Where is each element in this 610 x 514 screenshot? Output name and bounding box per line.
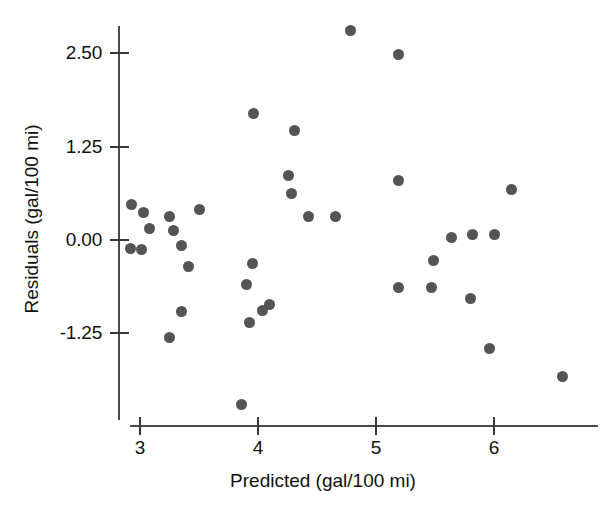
scatter-point (264, 299, 275, 310)
x-tick-label: 5 (356, 437, 396, 459)
y-tick-label: 1.25 (36, 136, 102, 158)
scatter-point (446, 232, 457, 243)
x-tick-label: 4 (238, 437, 278, 459)
scatter-point (164, 332, 175, 343)
scatter-point (428, 255, 439, 266)
y-axis-line (118, 26, 120, 420)
x-axis-title: Predicted (gal/100 mi) (0, 470, 610, 492)
scatter-point (183, 261, 194, 272)
y-tick-mark (110, 146, 129, 148)
scatter-point (330, 211, 341, 222)
scatter-point (283, 170, 294, 181)
scatter-point (164, 211, 175, 222)
y-tick-label: -1.25 (36, 322, 102, 344)
x-tick-mark (139, 417, 141, 435)
y-tick-mark (110, 239, 129, 241)
scatter-point (138, 207, 149, 218)
y-tick-mark (110, 52, 129, 54)
scatter-point (241, 279, 252, 290)
scatter-point (489, 229, 500, 240)
scatter-point (125, 243, 136, 254)
scatter-point (393, 49, 404, 60)
scatter-point (126, 199, 137, 210)
x-tick-label: 6 (474, 437, 514, 459)
scatter-point (393, 175, 404, 186)
y-axis-title: Residuals (gal/100 mi) (21, 99, 43, 339)
scatter-point (345, 25, 356, 36)
x-axis-line (130, 425, 598, 427)
scatter-point (465, 293, 476, 304)
scatter-point (144, 223, 155, 234)
y-tick-label: 0.00 (36, 229, 102, 251)
scatter-point (393, 282, 404, 293)
scatter-point (194, 204, 205, 215)
x-tick-mark (375, 417, 377, 435)
scatter-plot-figure: 2.501.250.00-1.25 3456 Predicted (gal/10… (0, 0, 610, 514)
scatter-point (426, 282, 437, 293)
scatter-point (244, 317, 255, 328)
x-tick-mark (493, 417, 495, 435)
x-tick-mark (257, 417, 259, 435)
scatter-point (506, 184, 517, 195)
scatter-point (247, 258, 258, 269)
y-tick-mark (110, 332, 129, 334)
scatter-point (289, 125, 300, 136)
scatter-point (557, 371, 568, 382)
y-tick-label: 2.50 (36, 42, 102, 64)
x-tick-label: 3 (120, 437, 160, 459)
scatter-point (286, 188, 297, 199)
scatter-point (484, 343, 495, 354)
scatter-point (176, 240, 187, 251)
scatter-point (168, 225, 179, 236)
scatter-point (236, 399, 247, 410)
scatter-point (303, 211, 314, 222)
scatter-point (176, 306, 187, 317)
scatter-point (467, 229, 478, 240)
scatter-point (136, 244, 147, 255)
scatter-point (248, 108, 259, 119)
